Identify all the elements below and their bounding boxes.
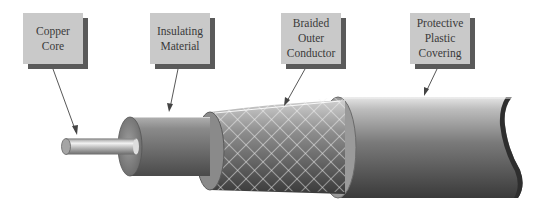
protective-jacket xyxy=(320,97,523,198)
label-protective-plastic-covering-text: Protective Plastic Covering xyxy=(417,16,464,61)
label-braided-outer-conductor: Braided Outer Conductor xyxy=(281,13,341,64)
label-braided-outer-conductor-text: Braided Outer Conductor xyxy=(287,16,336,61)
leader-line-braided-conductor xyxy=(286,69,305,103)
leader-line-insulating-material xyxy=(170,69,178,108)
label-copper-core-text: Copper Core xyxy=(36,24,70,54)
label-insulating-material-text: Insulating Material xyxy=(157,24,203,54)
copper-core-rod xyxy=(62,139,140,155)
arrow-icon xyxy=(72,125,78,135)
braided-conductor xyxy=(196,95,350,195)
label-protective-plastic-covering: Protective Plastic Covering xyxy=(410,13,470,64)
coaxial-cable-diagram: Copper Core Insulating Material Braided … xyxy=(0,0,543,211)
label-insulating-material: Insulating Material xyxy=(150,13,210,64)
arrow-icon xyxy=(167,103,173,112)
arrow-icon xyxy=(424,87,429,96)
label-copper-core: Copper Core xyxy=(23,13,83,64)
leader-line-copper-core xyxy=(53,69,76,132)
